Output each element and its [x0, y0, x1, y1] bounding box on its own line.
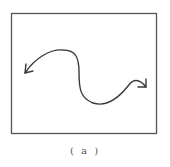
wavy-curve	[25, 50, 146, 104]
figure-caption: ( a )	[0, 145, 170, 156]
figure-a: ( a )	[0, 0, 170, 167]
diagram-canvas	[0, 0, 170, 167]
frame-box	[12, 14, 157, 134]
